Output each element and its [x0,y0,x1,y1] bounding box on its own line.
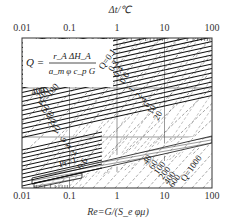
bottom-axis-label: Re=G/(S_e φμ) [86,206,149,218]
bottom-tick-label: 0.1 [63,190,76,201]
pr-label: 6 [58,135,69,144]
top-tick-label: 0.1 [63,22,76,33]
bottom-tick-label: 100 [205,190,220,201]
formula-numerator: r_A ΔH_A [53,51,91,61]
formula-denominator: a_m φ c_p G [49,66,96,76]
bottom-tick-label: 0.01 [13,190,31,201]
top-tick-label: 100 [205,22,220,33]
chart: Δt/℃ 0.010.1110100 0.010.1110100 Re=G/(S… [0,0,227,220]
bottom-tick-label: 10 [160,190,170,201]
bottom-tick-label: 1 [115,190,120,201]
q-line [214,138,227,188]
formula-lhs: Q = [26,56,44,68]
top-axis-label: Δt/℃ [108,4,133,15]
top-tick-label: 1 [115,22,120,33]
top-tick-label: 10 [160,22,170,33]
q-line [225,138,227,188]
top-tick-label: 0.01 [13,22,31,33]
pr-line [22,140,102,158]
